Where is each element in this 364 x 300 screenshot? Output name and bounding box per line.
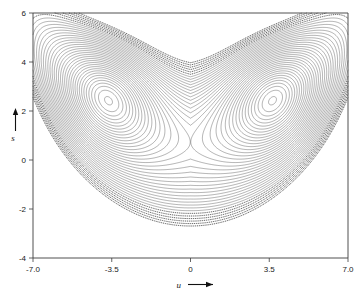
phase-portrait-figure: -7.0-3.503.57.0 -4-20246 u s [0,0,364,300]
y-tick-label: 0 [22,156,27,165]
y-tick-label: 2 [22,107,27,116]
x-tick-label: 0 [188,265,193,274]
y-axis-title: s [11,133,15,143]
y-tick-label: 6 [22,9,27,18]
x-tick-label: 7.0 [342,265,354,274]
x-axis-title: u [177,280,182,290]
y-tick-label: 4 [22,58,27,67]
y-tick-label: -4 [19,254,27,263]
x-tick-label: -3.5 [105,265,119,274]
x-tick-label: 3.5 [264,265,276,274]
y-tick-label: -2 [19,205,27,214]
x-tick-label: -7.0 [26,265,40,274]
